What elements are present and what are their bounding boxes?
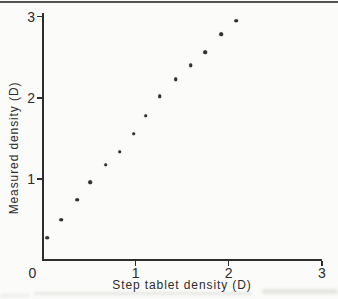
x-axis-line: [42, 259, 322, 261]
scatter-point: [75, 198, 79, 202]
scatter-point: [144, 114, 148, 118]
y-tick-label: 3: [15, 10, 35, 24]
scatter-point: [174, 77, 178, 81]
scatter-point: [189, 64, 193, 68]
scatter-point: [118, 150, 122, 154]
y-axis-line: [42, 13, 44, 261]
x-tick-label: 0: [22, 266, 44, 280]
y-tick-mark: [37, 97, 43, 99]
scan-artifact: [34, 292, 252, 295]
scatter-point: [158, 94, 162, 98]
y-axis-title: Measured density (D): [7, 82, 21, 215]
scan-artifact: [262, 289, 338, 294]
scatter-point: [59, 218, 63, 222]
scatter-point: [104, 163, 108, 167]
scan-artifact: [0, 294, 30, 297]
scatter-point: [234, 19, 238, 23]
scatter-point: [88, 181, 92, 185]
scatter-chart: 123 0123 Step tablet density (D) Measure…: [0, 0, 338, 299]
scatter-point: [204, 50, 208, 54]
scatter-point: [132, 132, 136, 136]
scatter-point: [219, 33, 223, 37]
scanned-figure-page: 123 0123 Step tablet density (D) Measure…: [0, 0, 338, 299]
y-tick-mark: [37, 178, 43, 180]
y-tick-mark: [37, 16, 43, 18]
scatter-point: [45, 236, 49, 240]
